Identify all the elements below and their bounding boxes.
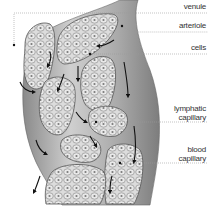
cell-cluster: [45, 165, 105, 205]
label-cells: cells: [191, 43, 206, 52]
flow-arrow: [34, 176, 40, 192]
label-venule: venule: [184, 2, 206, 11]
cell-cluster: [105, 144, 143, 204]
cell-cluster: [81, 56, 116, 110]
label-lymphatic-capillary: lymphatic capillary: [174, 104, 206, 122]
microcirculation-diagram: venule arteriole cells lymphatic capilla…: [0, 0, 210, 209]
label-arteriole: arteriole: [179, 21, 206, 30]
label-blood-capillary: blood capillary: [178, 145, 206, 163]
